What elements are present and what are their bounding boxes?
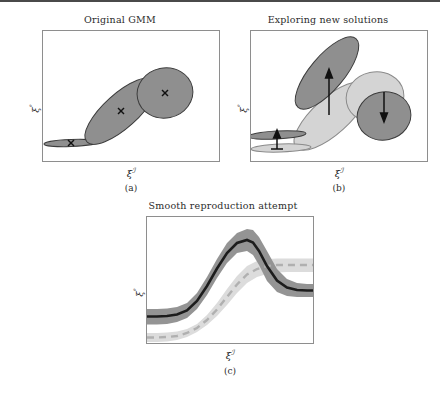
- panel-c-y-axis-base: ξ: [134, 291, 145, 297]
- original-mean-curve: [147, 265, 314, 338]
- panel-c-curve-canvas: [147, 217, 314, 344]
- panel-b-subcaption: (b): [250, 183, 428, 193]
- panel-b-x-axis-label: ξℐ: [250, 166, 428, 179]
- panel-a-x-axis-label: ξℐ: [42, 166, 220, 179]
- panel-a-gmm-canvas: [43, 31, 220, 162]
- panel-a-subcaption: (a): [42, 183, 220, 193]
- panel-c-subcaption: (c): [146, 366, 314, 376]
- panel-a-y-axis-superscript: ᵒ: [27, 104, 36, 107]
- panel-c-y-axis-superscript: ᵒ: [131, 288, 140, 291]
- panel-c-x-axis-superscript: ℐ: [231, 348, 234, 357]
- panel-a-x-axis-superscript: ℐ: [132, 166, 135, 175]
- panel-c-x-axis-label: ξℐ: [146, 348, 314, 361]
- panel-c-y-axis-label: ξᵒ: [131, 257, 144, 297]
- panel-b-y-axis-base: ξ: [238, 107, 249, 113]
- panel-a-y-axis-label: ξᵒ: [27, 73, 40, 113]
- original-component-flat-b: [251, 143, 311, 153]
- panel-a: Original GMM ξᵒ ξℐ (: [20, 14, 220, 200]
- panel-c-title: Smooth reproduction attempt: [118, 200, 328, 211]
- panel-c-plot-area: [146, 216, 314, 344]
- top-divider-rule: [0, 0, 440, 2]
- original-uncertainty-band: [147, 259, 314, 343]
- panel-b-title: Exploring new solutions: [228, 14, 428, 25]
- panel-c: Smooth reproduction attempt ξᵒ ξℐ (c): [118, 200, 328, 392]
- panel-b-y-axis-label: ξᵒ: [235, 73, 248, 113]
- panel-b-x-axis-superscript: ℐ: [340, 166, 343, 175]
- new-solution-uncertainty-band: [147, 229, 314, 325]
- panel-a-plot-area: [42, 30, 220, 162]
- panel-a-y-axis-base: ξ: [30, 107, 41, 113]
- panel-b: Exploring new solutions: [228, 14, 428, 200]
- panel-a-title: Original GMM: [20, 14, 220, 25]
- panel-b-gmm-canvas: [251, 31, 428, 162]
- panel-b-plot-area: [250, 30, 428, 162]
- panel-b-y-axis-superscript: ᵒ: [235, 104, 244, 107]
